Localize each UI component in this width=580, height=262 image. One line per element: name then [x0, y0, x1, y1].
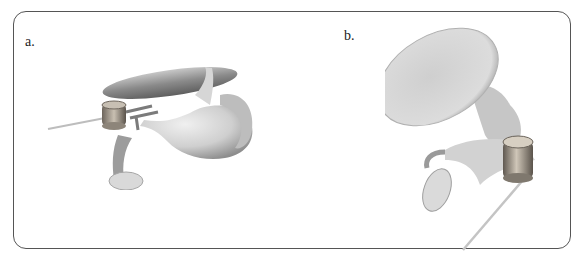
panel-b-label: b.: [344, 28, 355, 44]
panel-a-label: a.: [25, 34, 35, 50]
panel-b-image: [385, 20, 560, 252]
panel-a-image: [40, 50, 280, 190]
